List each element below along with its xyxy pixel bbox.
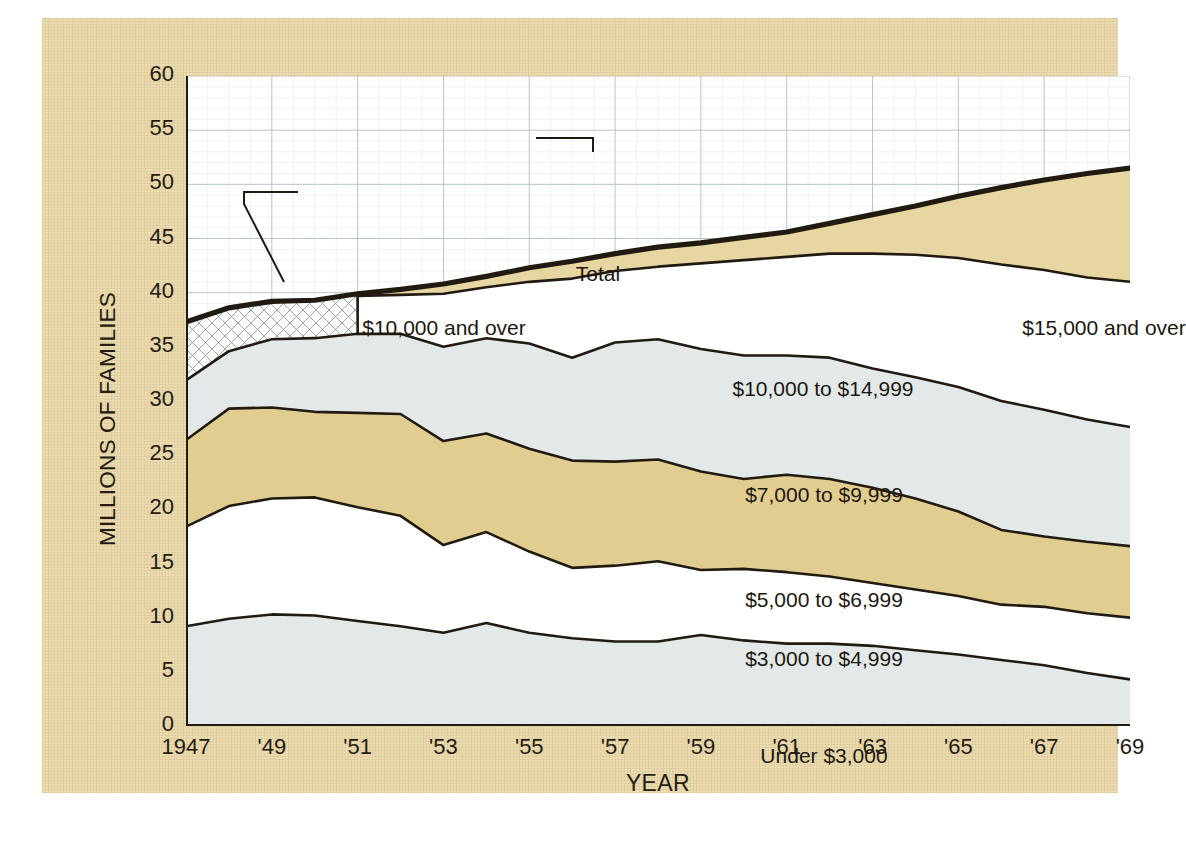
band-label: Total — [576, 262, 620, 286]
x-tick-label: '67 — [1030, 734, 1059, 760]
stacked-area-chart — [186, 76, 1130, 726]
y-tick-label: 40 — [114, 278, 174, 304]
band-label: $15,000 and over — [1022, 316, 1185, 340]
x-tick-label: '51 — [343, 734, 372, 760]
y-tick-label: 25 — [114, 440, 174, 466]
x-axis-ticks: 1947'49'51'53'55'57'59'61'63'65'67'69 — [186, 734, 1130, 768]
y-tick-label: 35 — [114, 332, 174, 358]
y-axis-label-wrap: MILLIONS OF FAMILIES — [60, 76, 100, 726]
y-axis-ticks: 051015202530354045505560 — [100, 76, 174, 726]
x-tick-label: '55 — [515, 734, 544, 760]
y-tick-label: 5 — [114, 657, 174, 683]
y-tick-label: 20 — [114, 494, 174, 520]
y-tick-label: 45 — [114, 224, 174, 250]
band-label: $10,000 and over — [362, 316, 525, 340]
band-label: $7,000 to $9,999 — [745, 483, 903, 507]
y-tick-label: 30 — [114, 386, 174, 412]
band-label: $5,000 to $6,999 — [745, 588, 903, 612]
poster-panel: MILLIONS OF FAMILIES 0510152025303540455… — [42, 18, 1132, 793]
band-label: $10,000 to $14,999 — [732, 377, 913, 401]
x-tick-label: '63 — [858, 734, 887, 760]
y-tick-label: 55 — [114, 115, 174, 141]
leader-10000-and-over — [244, 192, 298, 282]
x-tick-label: '69 — [1116, 734, 1145, 760]
leader-total — [536, 138, 593, 152]
x-tick-label: '65 — [944, 734, 973, 760]
y-tick-label: 10 — [114, 603, 174, 629]
y-tick-label: 15 — [114, 549, 174, 575]
x-tick-label: '53 — [429, 734, 458, 760]
band-label: $3,000 to $4,999 — [745, 647, 903, 671]
plot-area: Total$10,000 and over$15,000 and over$10… — [186, 76, 1130, 726]
top-white-strip — [0, 0, 1173, 18]
x-tick-label: '49 — [257, 734, 286, 760]
y-tick-label: 60 — [114, 61, 174, 87]
x-tick-label: '59 — [687, 734, 716, 760]
x-tick-label: '57 — [601, 734, 630, 760]
y-tick-label: 50 — [114, 169, 174, 195]
x-tick-label: 1947 — [162, 734, 211, 760]
x-tick-label: '61 — [772, 734, 801, 760]
x-axis-label: YEAR — [186, 770, 1130, 797]
